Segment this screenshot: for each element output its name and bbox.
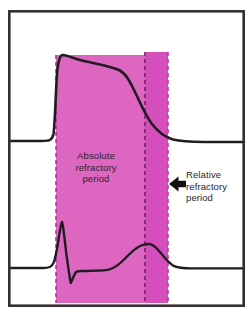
relative-refractory-band (145, 52, 168, 303)
absolute-refractory-label: Absolute refractory period (58, 150, 134, 185)
refractory-period-figure: Absolute refractory period Relative refr… (0, 0, 252, 320)
relative-label-line-3: period (186, 192, 248, 204)
relative-refractory-label: Relative refractory period (186, 169, 248, 204)
relative-label-line-1: Relative (186, 169, 248, 181)
left-pointing-arrow (169, 177, 186, 192)
absolute-label-line-3: period (58, 173, 134, 185)
relative-label-line-2: refractory (186, 181, 248, 193)
absolute-label-line-1: Absolute (58, 150, 134, 162)
absolute-label-line-2: refractory (58, 162, 134, 174)
